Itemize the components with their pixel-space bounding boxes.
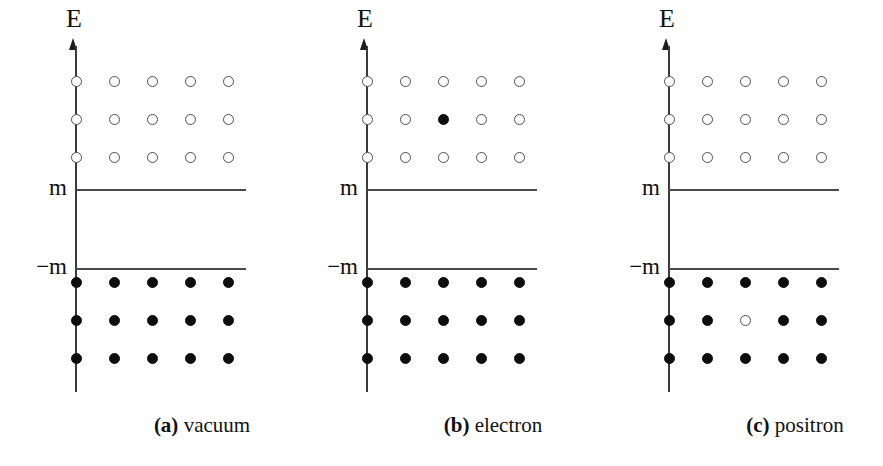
occupied-state-icon — [438, 114, 449, 125]
positive-mass-threshold-label: m — [298, 176, 358, 199]
unoccupied-state-icon — [362, 114, 373, 125]
occupied-state-icon — [223, 315, 234, 326]
negative-mass-threshold-line — [367, 268, 537, 270]
occupied-state-icon — [438, 315, 449, 326]
occupied-state-icon — [476, 353, 487, 364]
unoccupied-state-icon — [362, 152, 373, 163]
positive-mass-threshold-label: m — [7, 176, 67, 199]
state-row — [362, 152, 538, 190]
upper-continuum-states — [362, 76, 538, 190]
occupied-state-icon — [109, 353, 120, 364]
state-row — [362, 315, 538, 353]
unoccupied-state-icon — [147, 76, 158, 87]
occupied-state-icon — [778, 277, 789, 288]
state-row — [71, 277, 247, 315]
occupied-state-icon — [400, 353, 411, 364]
panel-caption: (a) vacuum — [55, 415, 349, 436]
state-row — [664, 353, 840, 391]
occupied-state-icon — [778, 315, 789, 326]
unoccupied-state-icon — [185, 152, 196, 163]
panel-caption: (b) electron — [346, 415, 640, 436]
positive-mass-threshold-label: m — [600, 176, 660, 199]
dirac-sea-figure: Em−m(a) vacuumEm−m(b) electronEm−m(c) po… — [0, 0, 883, 466]
unoccupied-state-icon — [400, 114, 411, 125]
unoccupied-state-icon — [740, 315, 751, 326]
occupied-state-icon — [185, 277, 196, 288]
occupied-state-icon — [438, 353, 449, 364]
lower-continuum-states — [71, 277, 247, 391]
unoccupied-state-icon — [702, 76, 713, 87]
unoccupied-state-icon — [740, 114, 751, 125]
occupied-state-icon — [400, 277, 411, 288]
occupied-state-icon — [740, 277, 751, 288]
occupied-state-icon — [362, 315, 373, 326]
energy-axis-label: E — [659, 6, 675, 32]
unoccupied-state-icon — [702, 114, 713, 125]
occupied-state-icon — [185, 353, 196, 364]
occupied-state-icon — [702, 353, 713, 364]
panel-caption-tag: (a) — [154, 413, 179, 437]
state-row — [71, 315, 247, 353]
occupied-state-icon — [362, 353, 373, 364]
unoccupied-state-icon — [71, 114, 82, 125]
occupied-state-icon — [438, 277, 449, 288]
negative-mass-threshold-line — [669, 268, 839, 270]
occupied-state-icon — [476, 277, 487, 288]
unoccupied-state-icon — [147, 152, 158, 163]
occupied-state-icon — [362, 277, 373, 288]
occupied-state-icon — [778, 353, 789, 364]
unoccupied-state-icon — [740, 152, 751, 163]
unoccupied-state-icon — [223, 114, 234, 125]
unoccupied-state-icon — [778, 114, 789, 125]
unoccupied-state-icon — [71, 152, 82, 163]
unoccupied-state-icon — [185, 114, 196, 125]
negative-mass-threshold-label: −m — [7, 255, 67, 278]
occupied-state-icon — [816, 315, 827, 326]
panel-caption-tag: (b) — [444, 413, 470, 437]
state-row — [362, 353, 538, 391]
occupied-state-icon — [476, 315, 487, 326]
unoccupied-state-icon — [514, 114, 525, 125]
occupied-state-icon — [514, 353, 525, 364]
unoccupied-state-icon — [223, 152, 234, 163]
occupied-state-icon — [185, 315, 196, 326]
unoccupied-state-icon — [438, 76, 449, 87]
upper-continuum-states — [664, 76, 840, 190]
unoccupied-state-icon — [109, 152, 120, 163]
unoccupied-state-icon — [223, 76, 234, 87]
unoccupied-state-icon — [109, 114, 120, 125]
unoccupied-state-icon — [514, 76, 525, 87]
state-row — [71, 76, 247, 114]
negative-mass-threshold-label: −m — [600, 255, 660, 278]
occupied-state-icon — [664, 315, 675, 326]
negative-mass-threshold-label: −m — [298, 255, 358, 278]
unoccupied-state-icon — [664, 114, 675, 125]
unoccupied-state-icon — [778, 152, 789, 163]
occupied-state-icon — [514, 277, 525, 288]
unoccupied-state-icon — [362, 76, 373, 87]
occupied-state-icon — [664, 353, 675, 364]
panel-b: Em−m(b) electron — [346, 0, 640, 466]
unoccupied-state-icon — [185, 76, 196, 87]
unoccupied-state-icon — [740, 76, 751, 87]
state-row — [362, 277, 538, 315]
occupied-state-icon — [71, 315, 82, 326]
unoccupied-state-icon — [514, 152, 525, 163]
occupied-state-icon — [223, 277, 234, 288]
unoccupied-state-icon — [816, 76, 827, 87]
occupied-state-icon — [109, 277, 120, 288]
unoccupied-state-icon — [702, 152, 713, 163]
occupied-state-icon — [702, 315, 713, 326]
state-row — [664, 277, 840, 315]
occupied-state-icon — [71, 353, 82, 364]
state-row — [664, 76, 840, 114]
panel-caption-text: electron — [475, 413, 543, 437]
panel-caption-tag: (c) — [746, 413, 769, 437]
panel-a: Em−m(a) vacuum — [55, 0, 349, 466]
energy-axis-label: E — [357, 6, 373, 32]
unoccupied-state-icon — [147, 114, 158, 125]
occupied-state-icon — [109, 315, 120, 326]
unoccupied-state-icon — [664, 152, 675, 163]
panel-caption: (c) positron — [648, 415, 883, 436]
panel-caption-text: vacuum — [184, 413, 250, 437]
